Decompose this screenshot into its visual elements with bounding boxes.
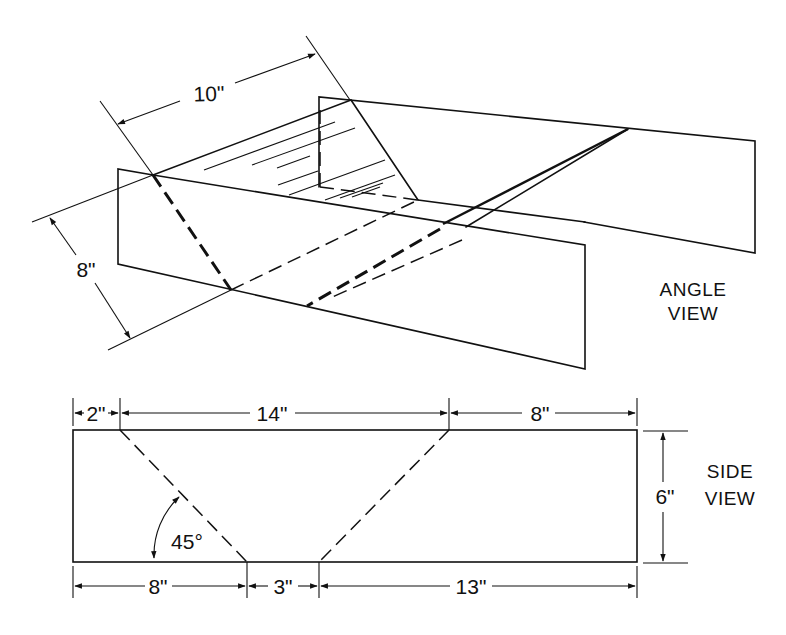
top-ridge (153, 100, 351, 175)
dimension-10in: 10" (100, 36, 350, 175)
right-cut-line (319, 430, 449, 562)
angle-45-marker: 45° (154, 497, 203, 558)
top-dimensions: 2" 14" 8" (73, 398, 637, 430)
front-hidden-slope (153, 175, 231, 290)
dim-2-label: 2" (86, 402, 105, 425)
angle-view-title-2: VIEW (668, 303, 719, 324)
dim-13-label: 13" (456, 575, 487, 598)
bottom-dimensions: 8" 3" 13" (73, 562, 637, 598)
dim-8-bottom-label: 8" (148, 575, 167, 598)
dim-10-label: 10" (193, 81, 225, 105)
diagonal-cut-lines (307, 129, 628, 306)
technical-drawing: 10" 8" ANGLE VIEW 2" (0, 0, 786, 635)
side-view-title-2: VIEW (705, 488, 756, 509)
height-dimension: 6" (643, 431, 688, 563)
dim-8-label: 8" (76, 258, 95, 281)
dim-6-label: 6" (655, 485, 674, 508)
back-panel-hidden-edges (320, 110, 418, 200)
dim-3-label: 3" (273, 575, 292, 598)
dim-14-label: 14" (257, 402, 288, 425)
angle-view-title-1: ANGLE (660, 279, 727, 300)
back-end-slope (351, 100, 418, 200)
front-panel (118, 169, 585, 369)
angle-45-label: 45° (171, 530, 203, 553)
angle-view: 10" 8" ANGLE VIEW (32, 36, 755, 369)
side-view: 2" 14" 8" 8" 3" 13" (73, 398, 755, 598)
dim-8-top-label: 8" (530, 402, 549, 425)
side-view-title-1: SIDE (707, 461, 753, 482)
side-outline (73, 430, 637, 562)
base-hidden-line (231, 200, 418, 290)
dimension-8in: 8" (32, 175, 231, 350)
